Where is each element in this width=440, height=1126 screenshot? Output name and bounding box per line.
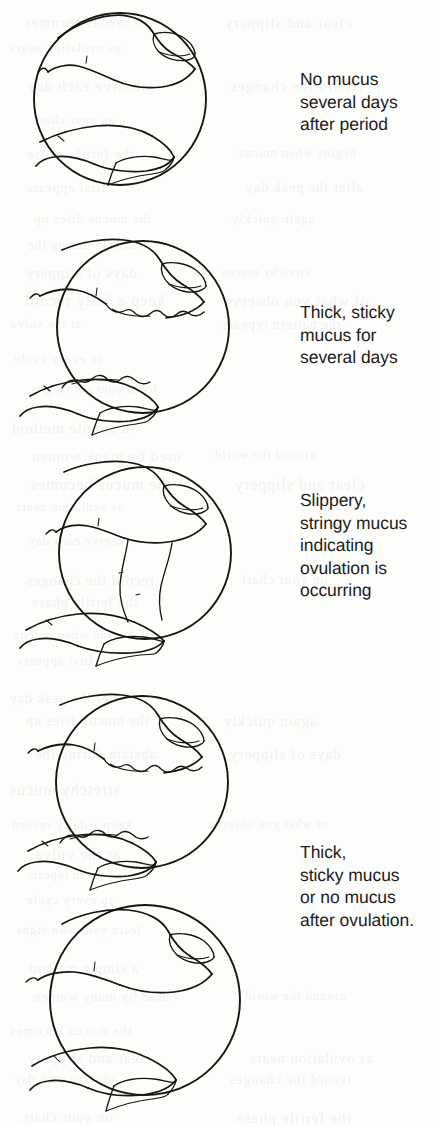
panel-circle-outline — [57, 241, 229, 413]
mucus-blob-upper — [104, 759, 202, 772]
fingers-no-mucus-post-ovulation-illustration — [0, 900, 440, 1115]
caption-no-mucus: No mucus several days after period — [300, 68, 398, 136]
panel-circle-outline — [56, 696, 228, 868]
mucus-blob-upper — [106, 304, 204, 317]
cervical-mucus-figure: No mucus several days after period — [0, 0, 440, 1126]
panel-circle-outline — [50, 905, 240, 1095]
mucus-blob-lower — [62, 375, 150, 388]
caption-thick-sticky: Thick, sticky mucus for several days — [300, 301, 398, 369]
mucus-strand-left — [120, 540, 128, 622]
mucus-strand-right — [159, 543, 172, 620]
panel-circle-outline — [34, 13, 206, 185]
caption-slippery-stringy: Slippery, stringy mucus indicating ovula… — [300, 489, 407, 602]
